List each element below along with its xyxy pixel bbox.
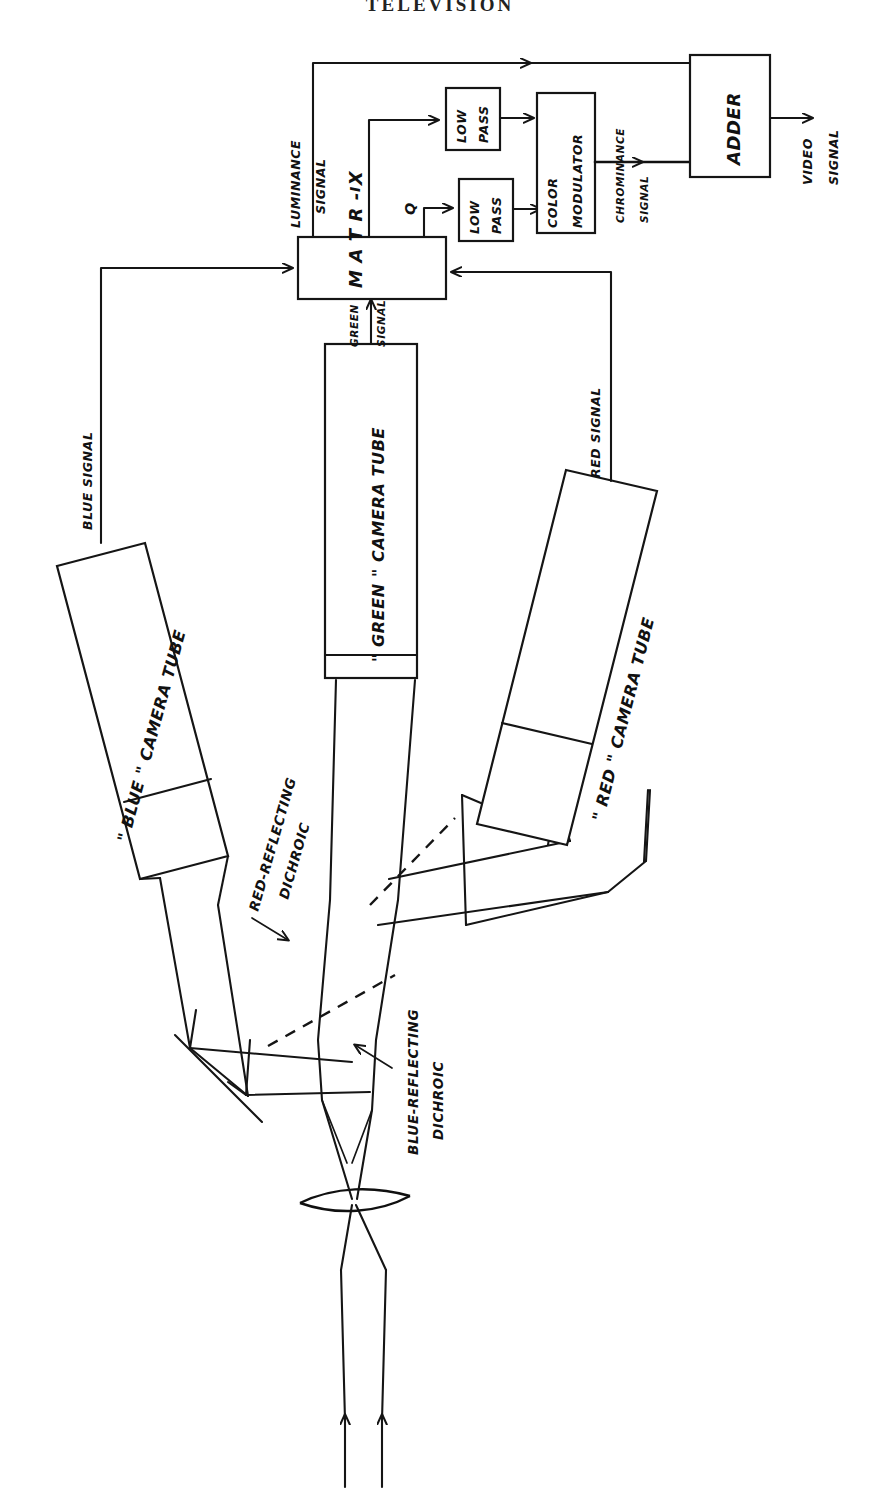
figure-canvas: TELEVISION [0, 0, 880, 1495]
blue-signal-label: BLUE SIGNAL [80, 432, 95, 530]
low-pass-q-label-line1: LOW [467, 200, 482, 234]
low-pass-q-label-line2: PASS [489, 196, 504, 234]
blue-dichroic-label-line2: DICHROIC [430, 1061, 446, 1140]
adder-block-label: ADDER [723, 92, 744, 167]
luminance-label-line2: SIGNAL [313, 158, 328, 214]
incoming-light-rays [341, 1270, 386, 1487]
green-signal-label-line2: SIGNAL [375, 300, 387, 347]
objective-lens [300, 1189, 410, 1211]
red-dichroic-pointer [252, 918, 288, 940]
chrominance-label-line2: SIGNAL [638, 176, 650, 223]
color-modulator-label-line1: COLOR [545, 177, 560, 228]
blue-dichroic-label-line1: BLUE-REFLECTING [405, 1009, 421, 1155]
low-pass-i-label-line2: PASS [476, 105, 491, 143]
video-signal-label-line2: SIGNAL [826, 129, 841, 185]
blue-signal-line [101, 268, 292, 543]
red-signal-label: RED SIGNAL [588, 387, 603, 478]
q-channel-label: Q [402, 202, 418, 215]
green-signal-label-line1: GREEN [348, 304, 360, 347]
optical-beam-upper [318, 680, 415, 1199]
low-pass-i-label-line1: LOW [454, 109, 469, 143]
chrominance-label-line1: CHROMINANCE [614, 128, 626, 223]
video-signal-label-line1: VIDEO [800, 138, 815, 185]
q-channel-line [424, 208, 452, 237]
color-modulator-label-line2: MODULATOR [570, 134, 585, 228]
matrix-block [298, 237, 446, 299]
red-reflecting-dichroic-surface [370, 818, 455, 905]
page-title: TELEVISION [366, 0, 514, 15]
luminance-label-line1: LUMINANCE [288, 140, 303, 228]
i-channel-line [369, 120, 438, 237]
television-camera-diagram: TELEVISION [0, 0, 880, 1495]
blue-dichroic-pointer [355, 1045, 392, 1068]
i-channel-label: I [347, 186, 363, 192]
blue-camera-tube [57, 543, 228, 905]
green-camera-tube-label: " GREEN " CAMERA TUBE [369, 427, 388, 662]
blue-optical-fold [175, 1010, 370, 1122]
lens-cone-lower [341, 1205, 386, 1270]
